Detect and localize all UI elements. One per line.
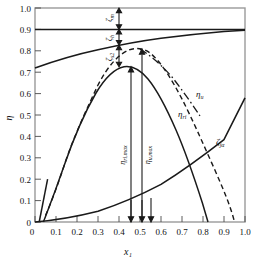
y-label-0.8: 0.8 [20, 46, 32, 56]
x-label-1.0: 1.0 [239, 227, 251, 237]
y-label-0.7: 0.7 [20, 68, 32, 78]
x-label-0.9: 0.9 [218, 227, 230, 237]
eta-ri-max-subscript: ri,max [122, 145, 128, 161]
x-label-0.1: 0.1 [50, 227, 61, 237]
y-label-1.0: 1.0 [20, 4, 32, 14]
y-label-0.2: 0.2 [20, 175, 31, 185]
y-axis-tick-labels: 1.0 0.9 0.8 0.7 0.6 0.5 0.4 0.3 0.2 0.1 … [20, 4, 32, 228]
eta-u-subscript: u [200, 94, 203, 100]
y-label-0.1: 0.1 [20, 196, 31, 206]
zeta-s2-subscript: s2 [109, 53, 115, 58]
zeta-h-subscript: h [109, 35, 115, 38]
y-axis-label: η [3, 115, 14, 120]
plot-border [35, 8, 245, 222]
x-label-0: 0 [30, 227, 35, 237]
x-label-0.6: 0.6 [155, 227, 167, 237]
y-label-0.6: 0.6 [20, 89, 32, 99]
chart-container: 1.0 0.9 0.8 0.7 0.6 0.5 0.4 0.3 0.2 0.1 … [0, 0, 259, 264]
x-label-0.7: 0.7 [176, 227, 188, 237]
x-label-0.2: 0.2 [71, 227, 82, 237]
eta-ri-subscript: ri [182, 114, 186, 120]
x-label-0.8: 0.8 [197, 227, 209, 237]
y-label-0.5: 0.5 [20, 111, 32, 121]
zeta-m-subscript: m [109, 14, 115, 19]
x-label-0.3: 0.3 [92, 227, 104, 237]
y-label-0.3: 0.3 [20, 153, 32, 163]
x-label-0.4: 0.4 [113, 227, 125, 237]
eta-u-max-subscript: u,max [147, 145, 153, 160]
x-label-0.5: 0.5 [134, 227, 146, 237]
y-label-0.9: 0.9 [20, 25, 32, 35]
x-axis-label: x₁ [123, 246, 132, 257]
y-label-0.4: 0.4 [20, 132, 32, 142]
x-axis-tick-labels: 0 0.1 0.2 0.3 0.4 0.5 0.6 0.7 0.8 0.9 1.… [30, 227, 251, 237]
y-label-0: 0 [27, 218, 32, 228]
zeta-j-alpha-subscript: jα [219, 142, 226, 148]
plot-frame [35, 8, 245, 222]
efficiency-chart: 1.0 0.9 0.8 0.7 0.6 0.5 0.4 0.3 0.2 0.1 … [0, 0, 259, 264]
